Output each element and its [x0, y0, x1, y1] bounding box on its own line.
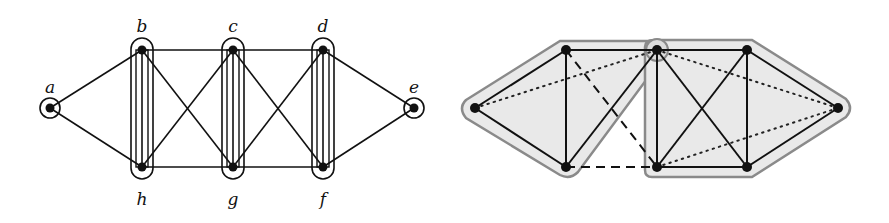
node-label-b: b	[137, 16, 148, 36]
node-label-e: e	[409, 77, 419, 97]
node-right-B2	[652, 162, 662, 172]
node-c	[229, 46, 238, 55]
node-label-f: f	[318, 189, 329, 209]
node-g	[229, 163, 238, 172]
node-right-B1	[561, 162, 571, 172]
node-label-c: c	[228, 16, 238, 36]
edge-f-e	[323, 108, 414, 167]
edge-d-e	[323, 50, 414, 108]
edge-a-h	[50, 108, 142, 167]
node-e	[410, 104, 419, 113]
node-b	[138, 46, 147, 55]
edge-a-b	[50, 50, 142, 108]
node-right-L	[470, 103, 480, 113]
node-right-T1	[561, 45, 571, 55]
node-a	[46, 104, 55, 113]
node-label-g: g	[228, 189, 239, 209]
node-right-B3	[742, 162, 752, 172]
node-d	[319, 46, 328, 55]
node-right-T2	[652, 45, 662, 55]
node-right-T3	[742, 45, 752, 55]
node-right-R	[833, 103, 843, 113]
node-label-d: d	[318, 16, 329, 36]
node-label-a: a	[45, 77, 55, 97]
hull-left-cluster	[462, 41, 665, 177]
node-h	[138, 163, 147, 172]
node-label-h: h	[137, 189, 148, 209]
node-f	[319, 163, 328, 172]
diagram-canvas: abcdefgh	[0, 0, 889, 223]
